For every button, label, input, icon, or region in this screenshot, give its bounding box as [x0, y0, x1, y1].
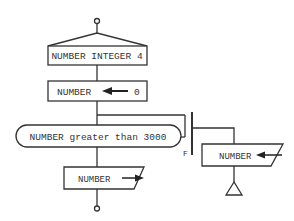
loop-body-connector	[192, 128, 234, 144]
start-circle	[95, 19, 100, 24]
declaration-roof	[48, 33, 147, 46]
declaration-label: NUMBER INTEGER 4	[51, 51, 143, 62]
loop-exit-label: F	[183, 149, 188, 158]
output-label: NUMBER	[78, 175, 111, 185]
loop-end-triangle	[226, 182, 242, 195]
loop-condition-label: NUMBER greater than 3000	[30, 132, 167, 143]
input-label: NUMBER	[219, 152, 252, 162]
flowchart: NUMBER INTEGER 4 NUMBER 0 NUMBER greater…	[0, 0, 294, 221]
assign-target-label: NUMBER	[57, 87, 92, 98]
end-circle	[95, 206, 100, 211]
assign-value-label: 0	[134, 87, 140, 98]
